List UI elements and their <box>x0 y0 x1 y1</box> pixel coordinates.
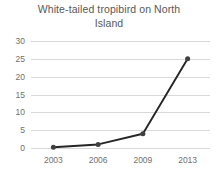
y-axis-labels: 30 25 20 15 10 5 0 <box>0 41 25 148</box>
y-tick-label-20: 20 <box>0 72 25 81</box>
y-tick-label-5: 5 <box>0 126 25 135</box>
gridline-10 <box>31 112 210 113</box>
plot-area <box>31 41 210 148</box>
y-tick-label-10: 10 <box>0 108 25 117</box>
gridline-25 <box>31 59 210 60</box>
y-tick-label-15: 15 <box>0 90 25 99</box>
gridline-0 <box>31 148 210 149</box>
x-tick-label-2003: 2003 <box>44 155 63 165</box>
x-tick-label-2013: 2013 <box>178 155 197 165</box>
x-tick-label-2006: 2006 <box>89 155 108 165</box>
gridline-30 <box>31 41 210 42</box>
line-chart: White-tailed tropibird on North Island 3… <box>0 0 218 183</box>
x-tick-label-2009: 2009 <box>133 155 152 165</box>
gridline-20 <box>31 77 210 78</box>
chart-title-line-2: Island <box>14 17 204 31</box>
y-tick-label-0: 0 <box>0 144 25 153</box>
gridline-15 <box>31 95 210 96</box>
x-axis-labels: 2003 2006 2009 2013 <box>31 155 210 169</box>
gridline-5 <box>31 130 210 131</box>
y-tick-label-30: 30 <box>0 37 25 46</box>
chart-title-line-1: White-tailed tropibird on North <box>14 3 204 17</box>
y-tick-label-25: 25 <box>0 55 25 64</box>
chart-title: White-tailed tropibird on North Island <box>14 3 204 30</box>
